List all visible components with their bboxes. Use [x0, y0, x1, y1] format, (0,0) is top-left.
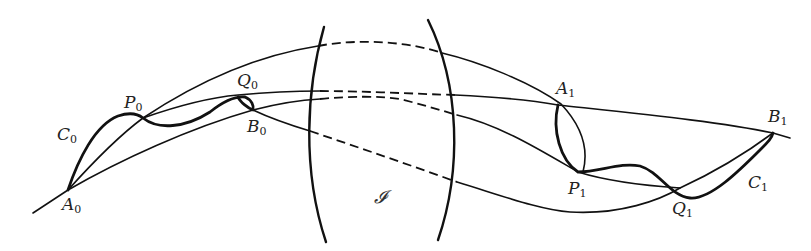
label-p0: P0	[124, 94, 142, 113]
diagram-canvas: A0 P0 Q0 B0 C0 A1 P1 Q1 B1 C1 𝓘	[0, 0, 811, 251]
label-region-i: 𝓘	[374, 186, 386, 208]
middle-dashed-lower	[320, 97, 457, 115]
label-p1: P1	[568, 180, 586, 199]
lower-dashed	[310, 131, 457, 182]
label-q1: Q1	[672, 200, 693, 219]
label-c1: C1	[748, 174, 768, 193]
right-boundary-curve	[428, 20, 454, 240]
top-arc-dashed	[318, 42, 442, 53]
label-b0: B0	[247, 118, 267, 137]
label-c0: C0	[57, 126, 77, 145]
curve-c1	[556, 105, 773, 198]
label-b1: B1	[768, 108, 788, 127]
label-q0: Q0	[237, 72, 258, 91]
middle-dashed-upper	[320, 91, 455, 95]
p0-q0-line	[143, 91, 320, 118]
p1-q1-line	[457, 115, 773, 188]
label-a1: A1	[556, 80, 575, 99]
top-arc-left	[68, 46, 318, 190]
label-a0: A0	[62, 196, 81, 215]
